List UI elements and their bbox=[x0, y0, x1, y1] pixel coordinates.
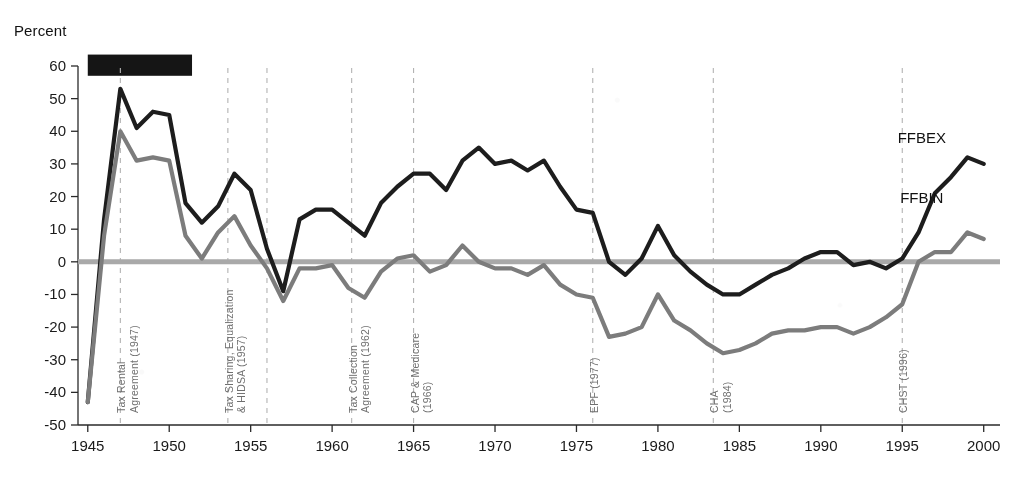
y-tick-label-4: 20 bbox=[49, 188, 66, 205]
redaction-bar bbox=[88, 55, 192, 76]
x-tick-label-7: 1980 bbox=[641, 437, 674, 454]
y-tick-label-1: 50 bbox=[49, 90, 66, 107]
y-axis-title: Percent bbox=[14, 22, 66, 39]
line-chart-plot: 6050403020100-10-20-30-40-50 19451950195… bbox=[0, 0, 1012, 477]
annotation-label-7-line-0: CHST (1996) bbox=[897, 349, 909, 413]
y-tick-label-5: 10 bbox=[49, 220, 66, 237]
axes-group bbox=[78, 66, 1000, 425]
redaction-bar-group bbox=[88, 55, 192, 76]
y-tick-label-8: -20 bbox=[44, 318, 66, 335]
x-tick-label-0: 1945 bbox=[71, 437, 104, 454]
y-tick-label-10: -40 bbox=[44, 383, 66, 400]
x-tick-label-10: 1995 bbox=[886, 437, 919, 454]
x-tick-label-9: 1990 bbox=[804, 437, 837, 454]
annotation-label-1-line-0: Tax Sharing, Equalization bbox=[223, 290, 235, 414]
annotation-label-4-line-1: (1966) bbox=[421, 381, 433, 413]
series-label-ffbin: FFBIN bbox=[900, 189, 943, 206]
annotation-label-4-line-0: CAP & Medicare bbox=[409, 333, 421, 413]
annotation-label-6-line-1: (1984) bbox=[721, 381, 733, 413]
y-tick-label-2: 40 bbox=[49, 122, 66, 139]
series-labels-group: FFBEXFFBIN bbox=[898, 129, 946, 206]
y-tick-label-11: -50 bbox=[44, 416, 66, 433]
annotation-label-6-line-0: CHA bbox=[708, 390, 720, 413]
y-tick-label-3: 30 bbox=[49, 155, 66, 172]
x-tick-label-8: 1985 bbox=[723, 437, 756, 454]
annotation-label-0-line-0: Tax Rental bbox=[115, 361, 127, 413]
annotation-label-5-line-0: EPF (1977) bbox=[588, 357, 600, 413]
chart-figure: Percent 6050403020100-10-20-30-40-50 194… bbox=[0, 0, 1012, 477]
y-tick-label-0: 60 bbox=[49, 57, 66, 74]
y-tick-label-9: -30 bbox=[44, 351, 66, 368]
x-tick-label-5: 1970 bbox=[478, 437, 511, 454]
annotation-label-3-line-1: Agreement (1962) bbox=[359, 325, 371, 413]
x-tick-labels-group: 1945195019551960196519701975198019851990… bbox=[71, 425, 1000, 454]
y-tick-label-6: 0 bbox=[58, 253, 66, 270]
annotation-label-3-line-0: Tax Collection bbox=[347, 345, 359, 413]
annotation-labels-group: Tax RentalAgreement (1947)Tax Sharing, E… bbox=[115, 290, 909, 414]
x-tick-label-2: 1955 bbox=[234, 437, 267, 454]
x-tick-label-1: 1950 bbox=[153, 437, 186, 454]
x-tick-label-6: 1975 bbox=[560, 437, 593, 454]
y-tick-labels-group: 6050403020100-10-20-30-40-50 bbox=[44, 57, 78, 433]
x-tick-label-3: 1960 bbox=[315, 437, 348, 454]
annotation-label-0-line-1: Agreement (1947) bbox=[128, 325, 140, 413]
x-tick-label-11: 2000 bbox=[967, 437, 1000, 454]
y-tick-label-7: -10 bbox=[44, 285, 66, 302]
series-label-ffbex: FFBEX bbox=[898, 129, 946, 146]
annotation-label-1-line-1: & HIDSA (1957) bbox=[235, 336, 247, 414]
x-tick-label-4: 1965 bbox=[397, 437, 430, 454]
